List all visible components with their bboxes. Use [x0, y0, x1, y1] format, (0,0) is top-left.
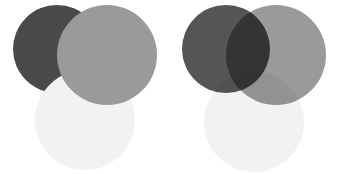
multiply-blend-panel	[169, 0, 339, 174]
gray-circle	[57, 5, 157, 105]
circle-stack-normal	[0, 0, 170, 174]
circle-stack-multiply	[169, 0, 339, 174]
light-circle	[204, 72, 304, 172]
opaque-stacking-panel	[0, 0, 170, 174]
figure-root	[0, 0, 339, 174]
